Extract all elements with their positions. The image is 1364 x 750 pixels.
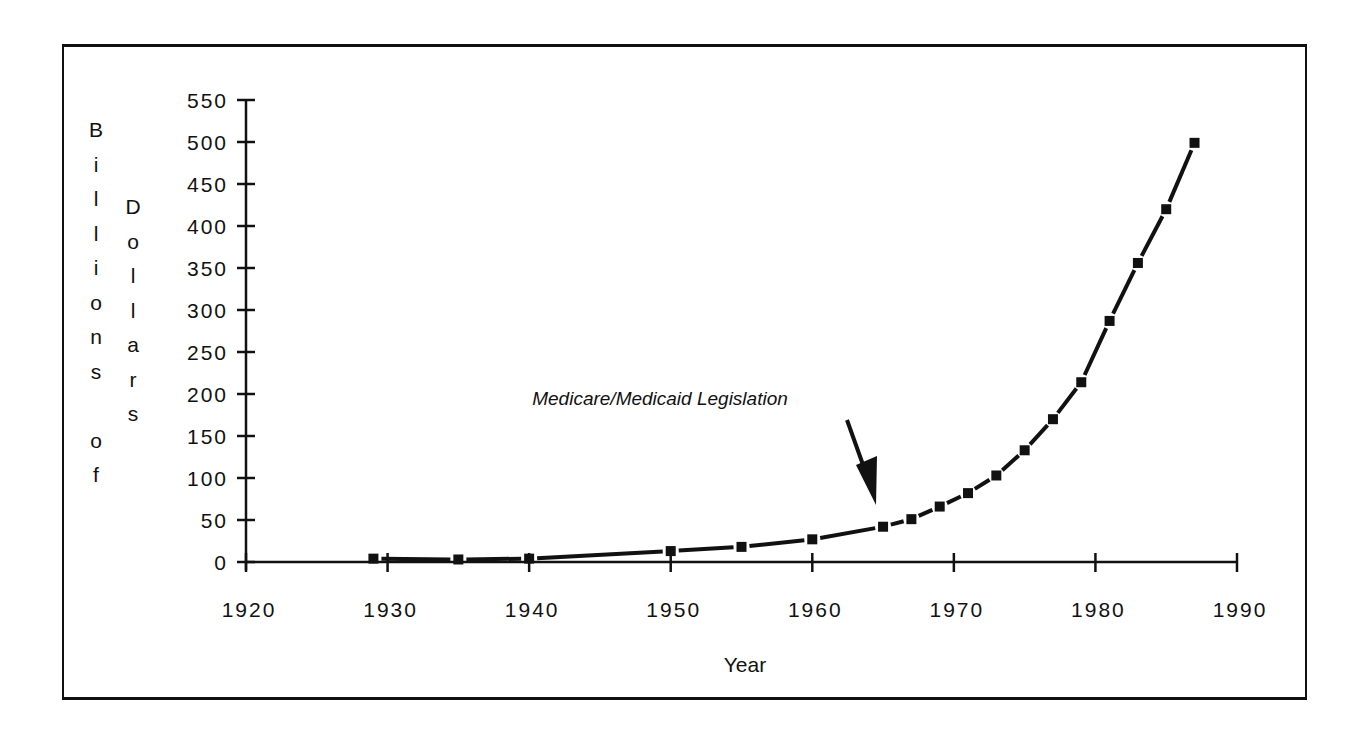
svg-text:r: r	[130, 368, 137, 391]
svg-text:f: f	[93, 463, 99, 486]
svg-text:i: i	[94, 256, 99, 279]
svg-text:l: l	[131, 264, 136, 287]
x-tick-label: 1930	[363, 598, 418, 621]
svg-text:o: o	[90, 429, 102, 452]
x-axis: 19201930194019501960197019801990	[222, 553, 1268, 621]
x-tick-label: 1950	[646, 598, 701, 621]
data-point-marker	[1076, 377, 1086, 387]
data-point-marker	[524, 554, 534, 564]
svg-text:o: o	[127, 230, 139, 253]
data-point-marker	[963, 488, 973, 498]
svg-text:l: l	[131, 299, 136, 322]
y-axis: 050100150200250300350400450500550	[187, 89, 255, 574]
data-point-marker	[368, 554, 378, 564]
data-point-marker	[1105, 316, 1115, 326]
data-point-marker	[807, 534, 817, 544]
x-tick-label: 1990	[1213, 598, 1268, 621]
data-point-marker	[1161, 204, 1171, 214]
svg-text:B: B	[89, 118, 103, 141]
y-tick-label: 0	[214, 551, 228, 574]
line-chart: 050100150200250300350400450500550 192019…	[0, 0, 1364, 750]
svg-text:n: n	[90, 325, 102, 348]
data-point-marker	[453, 554, 463, 564]
data-point-marker	[906, 514, 916, 524]
y-tick-label: 300	[187, 299, 228, 322]
y-tick-label: 350	[187, 257, 228, 280]
y-tick-label: 400	[187, 215, 228, 238]
data-point-marker	[666, 546, 676, 556]
svg-text:s: s	[128, 402, 139, 425]
data-series	[368, 138, 1199, 565]
data-point-marker	[1020, 445, 1030, 455]
x-tick-label: 1960	[788, 598, 843, 621]
svg-text:a: a	[127, 333, 139, 356]
y-tick-label: 200	[187, 383, 228, 406]
data-point-marker	[991, 470, 1001, 480]
y-axis-title: BillionsofDollars	[89, 118, 141, 486]
data-point-marker	[737, 542, 747, 552]
x-tick-label: 1940	[505, 598, 560, 621]
svg-text:l: l	[94, 222, 99, 245]
y-tick-label: 550	[187, 89, 228, 112]
svg-text:s: s	[91, 360, 102, 383]
annotation-label: Medicare/Medicaid Legislation	[532, 388, 788, 409]
svg-text:l: l	[94, 187, 99, 210]
y-tick-label: 150	[187, 425, 228, 448]
y-tick-label: 500	[187, 131, 228, 154]
x-tick-label: 1920	[222, 598, 277, 621]
data-point-marker	[1133, 258, 1143, 268]
data-point-marker	[1048, 414, 1058, 424]
x-tick-label: 1980	[1071, 598, 1126, 621]
x-axis-title: Year	[724, 653, 766, 676]
y-tick-label: 50	[201, 509, 228, 532]
svg-text:i: i	[94, 153, 99, 176]
y-tick-label: 450	[187, 173, 228, 196]
y-tick-label: 100	[187, 467, 228, 490]
data-point-marker	[935, 502, 945, 512]
svg-text:D: D	[125, 195, 140, 218]
y-tick-label: 250	[187, 341, 228, 364]
svg-text:o: o	[90, 291, 102, 314]
x-tick-label: 1970	[929, 598, 984, 621]
data-point-marker	[878, 522, 888, 532]
annotation-arrow-icon	[847, 420, 877, 505]
data-point-marker	[1190, 138, 1200, 148]
